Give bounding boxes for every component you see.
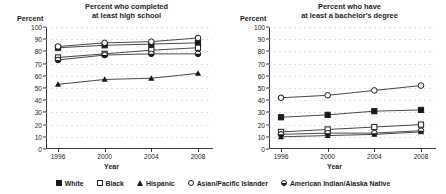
series-line-white (281, 110, 421, 117)
legend-item-label: Black (106, 180, 124, 187)
y-axis-label: Percent (17, 14, 43, 23)
y-tick-label: 50 (35, 85, 46, 92)
series-layer (269, 27, 435, 149)
x-tick-mark (151, 149, 152, 152)
legend-item-label: Hispanic (146, 180, 175, 187)
x-tick-label: 1996 (274, 153, 289, 160)
y-axis-label: Percent (240, 14, 266, 23)
data-point-marker (195, 35, 201, 41)
y-tick-label: 0 (38, 146, 46, 153)
legend-item-hispanic: Hispanic (137, 180, 175, 187)
data-point-marker (372, 109, 377, 114)
y-tick-label: 20 (258, 121, 269, 128)
filled-square-icon (56, 180, 62, 186)
y-tick-label: 100 (254, 24, 269, 31)
x-tick-mark (374, 149, 375, 152)
y-tick-label: 30 (258, 109, 269, 116)
y-tick-label: 50 (258, 85, 269, 92)
series-line-white (58, 43, 198, 48)
series-line-hispanic (58, 73, 198, 84)
y-tick-label: 30 (35, 109, 46, 116)
legend-item-black: Black (97, 180, 124, 187)
y-tick-label: 60 (35, 72, 46, 79)
data-point-marker (418, 122, 423, 127)
legend-item-label: White (65, 180, 84, 187)
y-tick-label: 90 (35, 36, 46, 43)
data-point-marker (278, 95, 284, 101)
series-line-american-indian-alaska-native (58, 54, 198, 60)
y-tick-label: 80 (258, 48, 269, 55)
data-point-marker (372, 124, 377, 129)
x-tick-label: 2008 (191, 153, 206, 160)
y-tick-label: 0 (261, 146, 269, 153)
data-point-marker (102, 52, 108, 58)
y-tick-label: 10 (35, 133, 46, 140)
data-point-marker (325, 130, 331, 136)
legend-item-american-indian-alaska-native: American Indian/Alaska Native (281, 180, 390, 187)
figure-two-panel-line-charts: Percent who completed at least high scho… (0, 0, 446, 194)
y-tick-label: 70 (35, 60, 46, 67)
data-point-marker (149, 51, 155, 57)
y-tick-label: 80 (35, 48, 46, 55)
series-line-asian-pacific-islander (58, 38, 198, 47)
panel-title-bachelors: Percent who have at least a bachelor's d… (257, 2, 442, 20)
x-axis-label: Year (223, 163, 446, 170)
panel-title-line-2: at least high school (34, 11, 219, 20)
x-tick-mark (421, 149, 422, 152)
x-tick-label: 2004 (367, 153, 382, 160)
data-point-marker (418, 107, 423, 112)
data-point-marker (325, 112, 330, 117)
x-tick-mark (58, 149, 59, 152)
data-point-marker (55, 44, 61, 50)
filled-triangle-icon (137, 180, 143, 186)
panel-bachelors-degree: Percent who have at least a bachelor's d… (223, 0, 446, 170)
legend-item-white: White (56, 180, 84, 187)
panel-title-high-school: Percent who completed at least high scho… (34, 2, 219, 20)
legend-item-asian-pacific-islander: Asian/Pacific Islander (188, 180, 268, 187)
x-tick-label: 2000 (97, 153, 112, 160)
series-layer (46, 27, 212, 149)
half-circle-icon (281, 180, 287, 186)
data-point-marker (55, 57, 61, 63)
data-point-marker (325, 93, 331, 99)
plot-area-bachelors: 01020304050607080901001996200020042008 (269, 27, 435, 149)
y-tick-label: 10 (258, 133, 269, 140)
data-point-marker (278, 115, 283, 120)
open-circle-icon (188, 180, 194, 186)
y-tick-label: 70 (258, 60, 269, 67)
y-tick-label: 90 (258, 36, 269, 43)
y-tick-label: 20 (35, 121, 46, 128)
data-point-marker (418, 128, 424, 134)
series-line-asian-pacific-islander (281, 86, 421, 98)
series-line-american-indian-alaska-native (281, 131, 421, 135)
x-tick-label: 2000 (320, 153, 335, 160)
y-tick-label: 40 (35, 97, 46, 104)
x-tick-mark (281, 149, 282, 152)
data-point-marker (278, 132, 284, 138)
x-tick-mark (328, 149, 329, 152)
series-line-black (58, 48, 198, 58)
plot-area-high-school: 01020304050607080901001996200020042008 (46, 27, 212, 149)
series-line-black (281, 125, 421, 132)
data-point-marker (195, 51, 201, 57)
x-tick-label: 1996 (51, 153, 66, 160)
data-point-marker (372, 130, 378, 136)
series-line-hispanic (281, 132, 421, 137)
x-tick-label: 2008 (414, 153, 429, 160)
data-point-marker (195, 70, 201, 76)
x-axis-label: Year (0, 163, 223, 170)
y-tick-label: 100 (31, 24, 46, 31)
chart-legend: WhiteBlackHispanicAsian/Pacific Islander… (0, 175, 446, 191)
legend-item-label: Asian/Pacific Islander (197, 180, 268, 187)
x-tick-label: 2004 (144, 153, 159, 160)
data-point-marker (195, 45, 200, 50)
panel-container: Percent who completed at least high scho… (0, 0, 446, 170)
panel-title-line-2: at least a bachelor's degree (257, 11, 442, 20)
legend-item-label: American Indian/Alaska Native (290, 180, 390, 187)
y-tick-label: 40 (258, 97, 269, 104)
x-tick-mark (198, 149, 199, 152)
panel-title-line-1: Percent who have (257, 2, 442, 11)
data-point-marker (372, 88, 378, 94)
x-tick-mark (105, 149, 106, 152)
data-point-marker (418, 83, 424, 89)
